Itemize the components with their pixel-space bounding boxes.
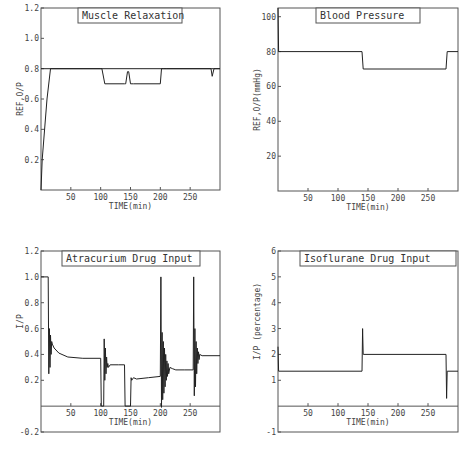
series-ip [41, 277, 220, 408]
x-axis-label: TIME(min) [109, 202, 152, 211]
x-tick-label: 250 [421, 409, 436, 418]
y-tick-label: 0.4 [25, 125, 40, 134]
y-tick-label: 2 [271, 350, 276, 359]
y-tick-label: 0.8 [25, 299, 40, 308]
x-tick-label: 200 [153, 409, 168, 418]
y-tick-label: 0.6 [25, 95, 40, 104]
y-tick-label: 0.8 [25, 65, 40, 74]
series-ip [278, 329, 458, 399]
x-tick-label: 100 [331, 194, 346, 203]
x-tick-label: 50 [303, 194, 313, 203]
plot-frame [278, 8, 458, 191]
y-tick-label: 5 [271, 273, 276, 282]
plot-frame [41, 8, 220, 190]
x-axis-label: TIME(min) [346, 203, 389, 212]
subplot-isoflurane-drug-input: 50100150200250TIME(min)-1123456I/P (perc… [253, 247, 458, 437]
subplot-muscle-relaxation: 50100150200250TIME(min)0.20.40.60.81.01.… [16, 4, 220, 211]
chart-title: Isoflurane Drug Input [304, 253, 430, 264]
y-axis-label: I/P [16, 314, 25, 329]
y-tick-label: 1.0 [25, 273, 40, 282]
subplot-blood-pressure: 50100150200250TIME(min)20406080100REF,O/… [253, 8, 458, 212]
y-axis-label: REF,O/P(mmHg) [253, 68, 262, 131]
y-tick-label: 60 [266, 82, 276, 91]
y-axis-label: I/P (percentage) [253, 283, 262, 360]
x-axis-label: TIME(min) [109, 418, 152, 427]
y-tick-label: 4 [271, 299, 276, 308]
x-tick-label: 150 [361, 409, 376, 418]
y-tick-label: 0.2 [25, 156, 40, 165]
chart-title: Muscle Relaxation [82, 10, 184, 21]
figure: 50100150200250TIME(min)0.20.40.60.81.01.… [0, 0, 468, 451]
y-tick-label: -1 [266, 428, 276, 437]
y-tick-label: 40 [266, 117, 276, 126]
x-tick-label: 200 [153, 193, 168, 202]
x-tick-label: 50 [66, 193, 76, 202]
subplot-atracurium-drug-input: 50100150200250TIME(min)-0.20.20.40.60.81… [16, 247, 220, 437]
y-axis-label: REF,O/P [16, 82, 25, 116]
x-tick-label: 250 [421, 194, 436, 203]
series-op [41, 69, 220, 190]
y-tick-label: 20 [266, 152, 276, 161]
chart-title: Atracurium Drug Input [66, 253, 192, 264]
y-tick-label: 80 [266, 48, 276, 57]
x-tick-label: 200 [391, 409, 406, 418]
y-tick-label: -0.2 [20, 428, 39, 437]
chart-title: Blood Pressure [320, 10, 404, 21]
x-axis-label: TIME(min) [346, 418, 389, 427]
x-tick-label: 50 [303, 409, 313, 418]
x-tick-label: 100 [93, 193, 108, 202]
y-tick-label: 1.2 [25, 4, 40, 13]
x-tick-label: 200 [391, 194, 406, 203]
y-tick-label: 1 [271, 376, 276, 385]
x-tick-label: 100 [93, 409, 108, 418]
y-tick-label: 0.4 [25, 350, 40, 359]
y-tick-label: 1.2 [25, 247, 40, 256]
x-tick-label: 250 [183, 193, 198, 202]
y-tick-label: 1.0 [25, 34, 40, 43]
y-tick-label: 0.2 [25, 376, 40, 385]
y-tick-label: 3 [271, 325, 276, 334]
x-tick-label: 250 [183, 409, 198, 418]
x-tick-label: 150 [123, 193, 138, 202]
y-tick-label: 100 [262, 13, 277, 22]
y-tick-label: 0.6 [25, 325, 40, 334]
x-tick-label: 150 [361, 194, 376, 203]
x-tick-label: 50 [66, 409, 76, 418]
x-tick-label: 100 [331, 409, 346, 418]
x-tick-label: 150 [123, 409, 138, 418]
y-tick-label: 6 [271, 247, 276, 256]
